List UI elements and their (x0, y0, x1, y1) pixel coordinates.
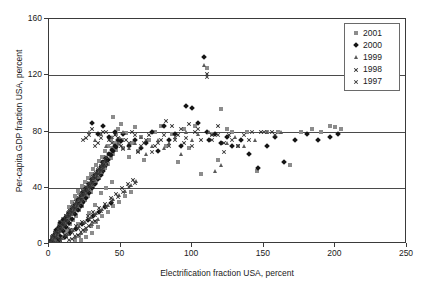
diamond-marker-icon (111, 148, 117, 154)
diamond-marker-icon (98, 172, 104, 178)
diamond-marker-icon (292, 137, 298, 143)
diamond-marker-icon (91, 213, 97, 219)
square-marker-icon (54, 236, 58, 240)
triangle-marker-icon (179, 152, 183, 156)
square-marker-icon (73, 207, 77, 211)
legend-item-1997[interactable]: 1997 (345, 75, 399, 87)
square-marker-icon (79, 238, 83, 242)
triangle-marker-icon (167, 141, 171, 145)
legend-item-2001[interactable]: 2001 (345, 27, 399, 39)
diamond-marker-icon (62, 220, 68, 226)
diamond-marker-icon (79, 221, 85, 227)
square-marker-icon (67, 205, 71, 209)
cross-marker-icon (77, 195, 82, 200)
triangle-marker-icon (127, 146, 131, 150)
square-marker-icon (73, 239, 77, 242)
legend-item-2000[interactable]: 2000 (345, 39, 399, 51)
cross-marker-icon (51, 237, 56, 242)
triangle-marker-icon (134, 179, 138, 183)
cross-marker-icon (115, 135, 120, 140)
legend-item-1998[interactable]: 1998 (345, 63, 399, 75)
square-marker-icon (91, 184, 95, 188)
x-tick-label: 100 (171, 249, 211, 258)
triangle-marker-icon (60, 236, 64, 240)
triangle-marker-icon (93, 138, 97, 142)
cross-marker-icon (99, 161, 104, 166)
cross-marker-icon (147, 132, 152, 137)
cross-marker-icon (204, 71, 209, 76)
cross-marker-icon (68, 213, 73, 218)
cross-marker-icon (68, 208, 73, 213)
square-marker-icon (68, 208, 72, 212)
square-marker-icon (136, 149, 140, 153)
square-marker-icon (97, 176, 101, 180)
triangle-marker-icon (73, 208, 77, 212)
cross-marker-icon (104, 159, 109, 164)
diamond-marker-icon (112, 129, 118, 135)
triangle-marker-icon (50, 241, 54, 242)
square-marker-icon (53, 235, 57, 239)
cross-marker-icon (273, 132, 278, 137)
triangle-marker-icon (96, 175, 100, 179)
cross-marker-icon (98, 135, 103, 140)
square-marker-icon (100, 155, 104, 159)
diamond-marker-icon (109, 147, 115, 153)
square-marker-icon (76, 189, 80, 193)
cross-marker-icon (230, 137, 235, 142)
cross-marker-icon (72, 205, 77, 210)
square-marker-icon (110, 146, 114, 150)
triangle-marker-icon (53, 238, 57, 242)
diamond-marker-icon (105, 157, 111, 163)
triangle-marker-icon (70, 212, 74, 216)
square-marker-icon (159, 124, 163, 128)
cross-marker-icon (101, 129, 106, 134)
diamond-marker-icon (315, 137, 321, 143)
triangle-marker-icon (202, 63, 206, 67)
square-marker-icon (147, 138, 151, 142)
cross-marker-icon (65, 212, 70, 217)
diamond-marker-icon (95, 131, 101, 137)
legend-label: 2000 (363, 41, 382, 50)
square-marker-icon (67, 232, 71, 236)
triangle-marker-icon (91, 177, 95, 181)
diamond-marker-icon (161, 123, 167, 129)
cross-marker-icon (87, 184, 92, 189)
triangle-marker-icon (61, 225, 65, 229)
diamond-marker-icon (264, 143, 270, 149)
diamond-marker-icon (95, 176, 101, 182)
cross-marker-icon (353, 79, 358, 84)
cross-marker-icon (55, 226, 60, 231)
cross-marker-icon (101, 159, 106, 164)
cross-marker-icon (247, 137, 252, 142)
square-marker-icon (84, 186, 88, 190)
square-marker-icon (99, 165, 103, 169)
cross-marker-icon (59, 220, 64, 225)
triangle-marker-icon (94, 211, 98, 215)
cross-marker-icon (241, 132, 246, 137)
triangle-marker-icon (87, 130, 91, 134)
diamond-marker-icon (281, 160, 287, 166)
diamond-marker-icon (106, 151, 112, 157)
cross-marker-icon (64, 233, 69, 238)
cross-marker-icon (164, 118, 169, 123)
square-marker-icon (99, 191, 103, 195)
cross-marker-icon (58, 226, 63, 231)
square-marker-icon (219, 107, 223, 111)
triangle-marker-icon (89, 215, 93, 219)
cross-marker-icon (51, 240, 56, 242)
diamond-marker-icon (66, 210, 72, 216)
square-marker-icon (74, 214, 78, 218)
cross-marker-icon (75, 201, 80, 206)
square-marker-icon (83, 180, 87, 184)
triangle-marker-icon (87, 187, 91, 191)
cross-marker-icon (84, 184, 89, 189)
cross-marker-icon (81, 137, 86, 142)
square-marker-icon (97, 159, 101, 163)
square-marker-icon (86, 194, 90, 198)
diamond-marker-icon (353, 42, 359, 48)
square-marker-icon (121, 146, 125, 150)
cross-marker-icon (124, 137, 129, 142)
square-marker-icon (94, 220, 98, 224)
diamond-marker-icon (56, 224, 62, 230)
legend-item-1999[interactable]: 1999 (345, 51, 399, 63)
